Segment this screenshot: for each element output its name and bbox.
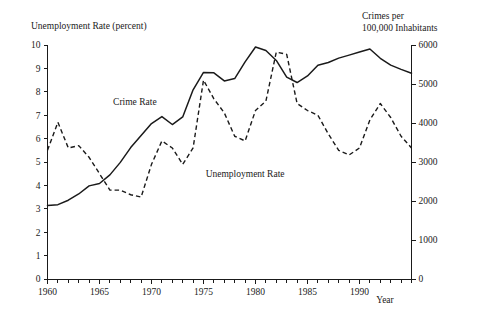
x-tick-label: 1965 bbox=[90, 287, 109, 297]
right-axis-title-line2: 100,000 Inhabitants bbox=[362, 23, 438, 33]
x-tick-label: 1980 bbox=[246, 287, 265, 297]
left-tick-label: 9 bbox=[36, 64, 41, 74]
series-annotation-crime-rate: Crime Rate bbox=[113, 97, 157, 107]
left-tick-label: 1 bbox=[36, 251, 41, 261]
x-tick-label: 1975 bbox=[194, 287, 213, 297]
left-tick-label: 5 bbox=[36, 157, 41, 167]
x-tick-label: 1960 bbox=[38, 287, 57, 297]
x-axis-label: Year bbox=[376, 295, 394, 305]
left-tick-label: 0 bbox=[36, 274, 41, 284]
right-tick-label: 4000 bbox=[419, 118, 438, 128]
right-tick-label: 6000 bbox=[419, 40, 438, 50]
right-axis-title-line1: Crimes per bbox=[362, 11, 405, 21]
series-annotation-unemployment-rate: Unemployment Rate bbox=[206, 169, 285, 179]
left-tick-label: 4 bbox=[36, 181, 41, 191]
left-tick-label: 10 bbox=[31, 40, 41, 50]
right-tick-label: 3000 bbox=[419, 157, 438, 167]
right-tick-label: 5000 bbox=[419, 79, 438, 89]
left-tick-label: 8 bbox=[36, 87, 41, 97]
x-tick-label: 1985 bbox=[298, 287, 317, 297]
unemployment-crime-rate-chart: Unemployment Rate (percent) Crimes per 1… bbox=[0, 0, 493, 314]
left-tick-label: 6 bbox=[36, 134, 41, 144]
left-tick-label: 7 bbox=[36, 111, 41, 121]
left-axis-title: Unemployment Rate (percent) bbox=[31, 21, 147, 32]
chart-container: Unemployment Rate (percent) Crimes per 1… bbox=[0, 0, 493, 314]
x-tick-label: 1970 bbox=[142, 287, 161, 297]
left-tick-label: 2 bbox=[36, 228, 41, 238]
right-tick-label: 2000 bbox=[419, 196, 438, 206]
x-tick-label: 1990 bbox=[350, 287, 369, 297]
right-tick-label: 0 bbox=[419, 274, 424, 284]
right-tick-label: 1000 bbox=[419, 235, 438, 245]
left-tick-label: 3 bbox=[36, 204, 41, 214]
